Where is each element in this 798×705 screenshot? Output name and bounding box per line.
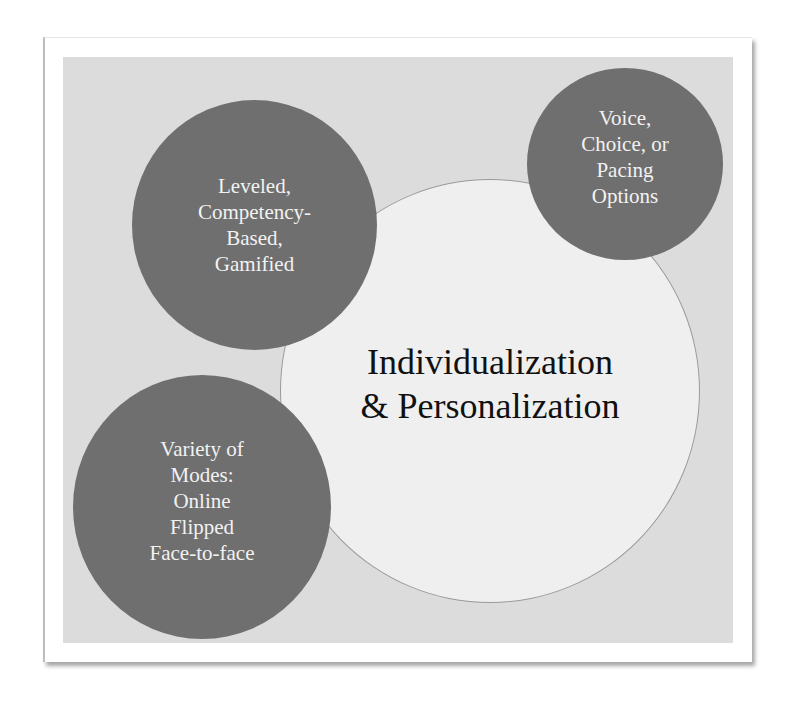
- satellite-label-leveled-competency: Leveled, Competency- Based, Gamified: [198, 173, 311, 277]
- diagram-canvas: Individualization & Personalization Leve…: [63, 57, 733, 643]
- center-circle-label: Individualization & Personalization: [361, 340, 620, 428]
- satellite-circle-voice-choice: Voice, Choice, or Pacing Options: [527, 68, 723, 260]
- satellite-label-voice-choice: Voice, Choice, or Pacing Options: [581, 105, 668, 209]
- satellite-circle-leveled-competency: Leveled, Competency- Based, Gamified: [132, 100, 377, 350]
- satellite-circle-variety-of-modes: Variety of Modes: Online Flipped Face-to…: [73, 375, 331, 639]
- satellite-label-variety-of-modes: Variety of Modes: Online Flipped Face-to…: [150, 436, 255, 566]
